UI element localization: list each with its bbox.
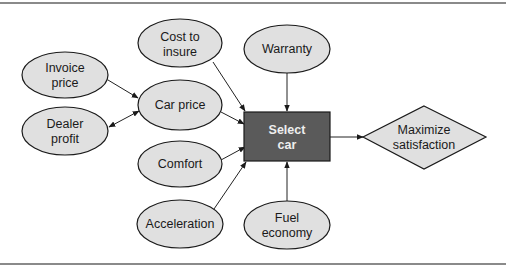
node-label: profit	[51, 132, 79, 146]
node-label: Dealer	[47, 117, 84, 131]
node-cost-to-insure[interactable]: Cost to insure	[138, 19, 222, 67]
edge-dealer-carprice-bidirectional	[109, 111, 139, 127]
edge-invoice-to-carprice	[108, 80, 138, 98]
node-label: Cost to	[160, 30, 200, 44]
node-label: Select	[269, 123, 307, 137]
node-label: price	[51, 76, 78, 90]
node-label: Car price	[155, 98, 206, 112]
node-label: Comfort	[158, 157, 203, 171]
node-fuel-economy[interactable]: Fuel economy	[244, 201, 330, 249]
node-label: economy	[262, 226, 313, 240]
node-label: Invoice	[45, 61, 85, 75]
node-maximize-satisfaction[interactable]: Maximize satisfaction	[363, 106, 486, 169]
node-label: car	[278, 138, 297, 152]
node-car-price[interactable]: Car price	[138, 80, 222, 130]
edge-carprice-to-select	[221, 112, 244, 124]
node-label: satisfaction	[393, 138, 456, 152]
edge-comfort-to-select	[221, 147, 245, 160]
node-label: Warranty	[262, 42, 313, 56]
node-acceleration[interactable]: Acceleration	[137, 200, 223, 248]
node-select-car[interactable]: Select car	[244, 112, 330, 161]
node-dealer-profit[interactable]: Dealer profit	[22, 107, 108, 155]
node-label: Maximize	[398, 123, 451, 137]
node-invoice-price[interactable]: Invoice price	[22, 52, 108, 98]
node-label: Fuel	[275, 211, 299, 225]
node-comfort[interactable]: Comfort	[138, 141, 222, 187]
influence-diagram: Invoice price Dealer profit Cost to insu…	[0, 0, 506, 268]
node-label: Acceleration	[146, 217, 215, 231]
node-warranty[interactable]: Warranty	[244, 25, 330, 73]
node-label: insure	[163, 45, 197, 59]
